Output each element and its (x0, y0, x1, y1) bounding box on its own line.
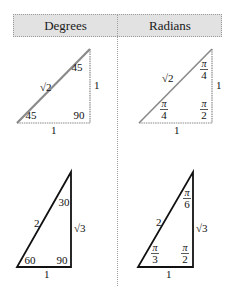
triangle-30-60-radians: 2 √3 1 π 6 π 3 π 2 (138, 172, 208, 280)
angle-right-numerator: π (182, 242, 188, 253)
vertical-side-label: 1 (216, 79, 222, 91)
triangle-45-radians: √2 1 1 π 4 π 4 π 2 (139, 49, 222, 136)
angle-top-label: 45 (72, 61, 84, 73)
hypotenuse-label: √2 (162, 72, 174, 84)
vertical-side-label: √3 (74, 222, 86, 234)
vertical-side-label: √3 (196, 222, 208, 234)
angle-bottom-left-numerator: π (161, 98, 167, 109)
hypotenuse-label: √2 (40, 81, 52, 93)
angle-bottom-left-denominator: 3 (152, 253, 158, 265)
hypotenuse-label: 2 (34, 217, 40, 229)
vertical-side-label: 1 (94, 79, 100, 91)
base-label: 1 (44, 268, 50, 280)
triangle-30-60-degrees: 2 √3 1 30 60 90 (17, 172, 86, 280)
angle-top-denominator: 4 (201, 69, 207, 81)
angle-bottom-left-label: 45 (26, 109, 38, 121)
base-label: 1 (51, 124, 57, 136)
triangle-diagrams: √2 1 1 45 45 90 √2 1 1 π 4 π 4 π 2 2 √3 … (0, 0, 235, 292)
base-label: 1 (166, 268, 172, 280)
triangle-outline (17, 172, 71, 267)
angle-right-label: 90 (57, 254, 69, 266)
triangle-45-degrees: √2 1 1 45 45 90 (17, 49, 100, 136)
angle-right-denominator: 2 (201, 109, 207, 121)
angle-right-numerator: π (201, 98, 207, 109)
angle-top-denominator: 6 (184, 198, 190, 210)
angle-bottom-left-numerator: π (152, 242, 158, 253)
angle-top-numerator: π (184, 187, 190, 198)
hypotenuse-label: 2 (156, 216, 162, 228)
angle-bottom-left-denominator: 4 (161, 109, 167, 121)
angle-top-label: 30 (59, 196, 71, 208)
base-label: 1 (174, 124, 180, 136)
angle-right-denominator: 2 (182, 253, 188, 265)
angle-top-numerator: π (201, 58, 207, 69)
angle-right-label: 90 (74, 109, 86, 121)
angle-bottom-left-label: 60 (25, 254, 37, 266)
